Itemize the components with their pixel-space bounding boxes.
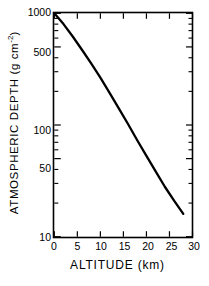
- x-axis-ticks: [54, 13, 192, 236]
- x-axis-title: ALTITUDE (km): [26, 258, 209, 272]
- y-axis-major-ticks: [54, 13, 192, 236]
- series-line-atmospheric-depth: [54, 13, 183, 214]
- axes-frame: [54, 13, 193, 238]
- chart-figure: ATMOSPHERIC DEPTH (g cm-2) 1000 500 100 …: [0, 0, 209, 286]
- data-series-layer: [54, 13, 183, 214]
- plot-area: [0, 0, 209, 286]
- y-axis-minor-ticks: [54, 18, 192, 203]
